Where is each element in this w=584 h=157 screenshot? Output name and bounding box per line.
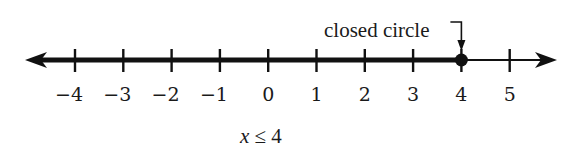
number-line-diagram: −4−3−2−1012345 closed circle x ≤ 4 [0,0,584,157]
tick-label: 0 [262,83,274,105]
tick-label: 3 [407,83,419,105]
tick-label: −1 [200,83,228,105]
callout-arrowhead-icon [457,40,465,51]
tick-label: 5 [504,83,516,105]
tick-label: 2 [359,83,371,105]
callout-label: closed circle [324,18,430,42]
tick-label: 1 [310,83,322,105]
axis [25,52,557,68]
tick-label: 4 [455,83,467,105]
inequality-text: ≤ 4 [249,124,282,148]
callout: closed circle [324,18,465,51]
tick-label: −2 [152,83,180,105]
tick-label: −4 [55,83,83,105]
inequality-label: x ≤ 4 [239,124,282,148]
tick-label: −3 [103,83,131,105]
tick-labels: −4−3−2−1012345 [55,83,516,105]
